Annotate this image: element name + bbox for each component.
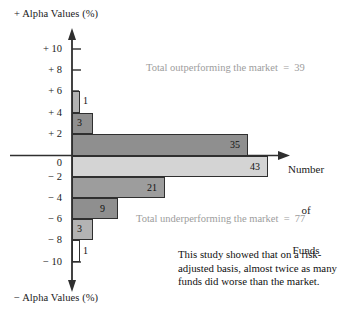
annotation-underperforming: Total underperforming the market = 77 (136, 213, 305, 224)
bar-alpha-neg8-to-neg6 (72, 219, 93, 240)
ytick-label-pos2: + 2 (28, 128, 62, 139)
alpha-values-bar-chart: + Alpha Values (%) − Alpha Values (%) Nu… (0, 0, 352, 320)
bar-value-label-3-top: 3 (77, 117, 82, 128)
bar-value-label-1-bottom: 1 (83, 245, 88, 256)
annotation-outperforming: Total outperforming the market = 39 (146, 62, 305, 73)
bar-alpha-neg10-to-neg8 (72, 240, 80, 262)
bar-value-label-43: 43 (250, 161, 260, 172)
ytick-label-zero: 0 (28, 157, 62, 168)
y-axis-arrow-up-icon (68, 28, 76, 40)
bar-alpha-0-to-2 (72, 134, 248, 156)
ytick-label-pos4: + 4 (28, 107, 62, 118)
bar-alpha-2-to-4 (72, 113, 93, 134)
ytick-label-pos6: + 6 (28, 85, 62, 96)
bar-value-label-1-top: 1 (83, 95, 88, 106)
bar-alpha-neg2-to-0 (72, 156, 268, 177)
bar-value-label-35: 35 (230, 139, 240, 150)
ytick-label-neg2: − 2 (28, 171, 62, 182)
ytick-label-pos8: + 8 (28, 64, 62, 75)
ytick-label-neg4: − 4 (28, 192, 62, 203)
ytick-label-neg8: − 8 (28, 234, 62, 245)
ytick-label-neg6: − 6 (28, 213, 62, 224)
y-axis-arrow-down-icon (68, 280, 76, 292)
bar-value-label-9: 9 (100, 203, 105, 214)
study-note-text: This study showed that on a risk-adjuste… (178, 248, 352, 289)
bar-value-label-21: 21 (147, 182, 157, 193)
bar-alpha-4-to-6 (72, 91, 80, 113)
ytick-label-pos10: + 10 (28, 43, 62, 54)
ytick-label-neg10: − 10 (28, 256, 62, 267)
bar-alpha-neg6-to-neg4 (72, 198, 118, 219)
x-axis-arrow-right-icon (278, 151, 290, 160)
bar-value-label-3-bottom: 3 (77, 223, 82, 234)
